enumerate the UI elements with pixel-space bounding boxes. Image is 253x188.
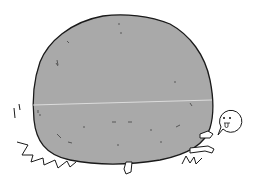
impact-zigzag-right xyxy=(182,156,202,164)
motion-marks xyxy=(14,104,20,118)
boulder xyxy=(33,15,213,164)
speech-bubble xyxy=(218,110,242,135)
boulder-illustration xyxy=(0,0,253,188)
illustration-canvas xyxy=(0,0,253,188)
